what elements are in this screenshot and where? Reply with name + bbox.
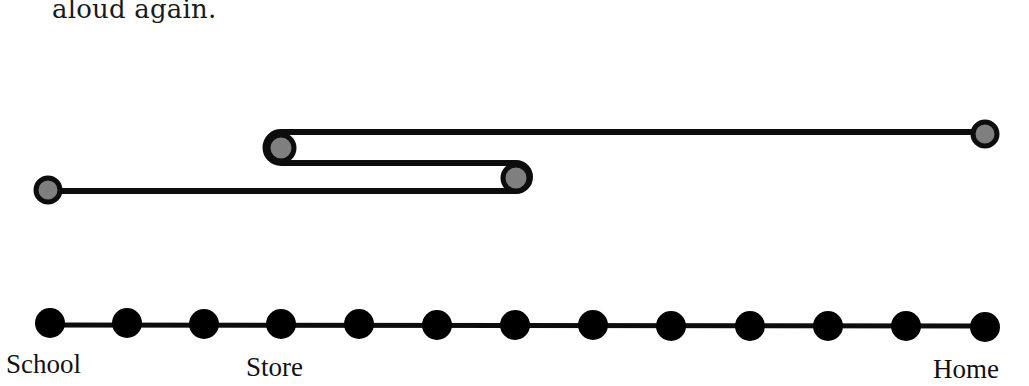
tick-dot bbox=[735, 311, 765, 341]
tick-dot bbox=[500, 310, 530, 340]
tick-dot bbox=[891, 311, 921, 341]
stop-marker-turnaround bbox=[503, 165, 529, 191]
tick-dot bbox=[35, 308, 65, 338]
tick-dot bbox=[422, 310, 452, 340]
stop-marker-store bbox=[268, 135, 294, 161]
tick-dot bbox=[578, 310, 608, 340]
tick-dot bbox=[813, 311, 843, 341]
tick-dot bbox=[189, 309, 219, 339]
trip-diagram bbox=[0, 0, 1029, 386]
tick-dot bbox=[344, 309, 374, 339]
label-school: School bbox=[6, 349, 81, 380]
label-home: Home bbox=[933, 354, 999, 385]
tick-dot bbox=[112, 308, 142, 338]
label-store: Store bbox=[246, 352, 303, 383]
tick-dot bbox=[970, 312, 1000, 342]
stop-marker-school bbox=[36, 178, 60, 202]
number-line bbox=[35, 308, 1000, 342]
tick-dot bbox=[266, 309, 296, 339]
stop-marker-home bbox=[973, 122, 997, 146]
tick-dot bbox=[656, 311, 686, 341]
